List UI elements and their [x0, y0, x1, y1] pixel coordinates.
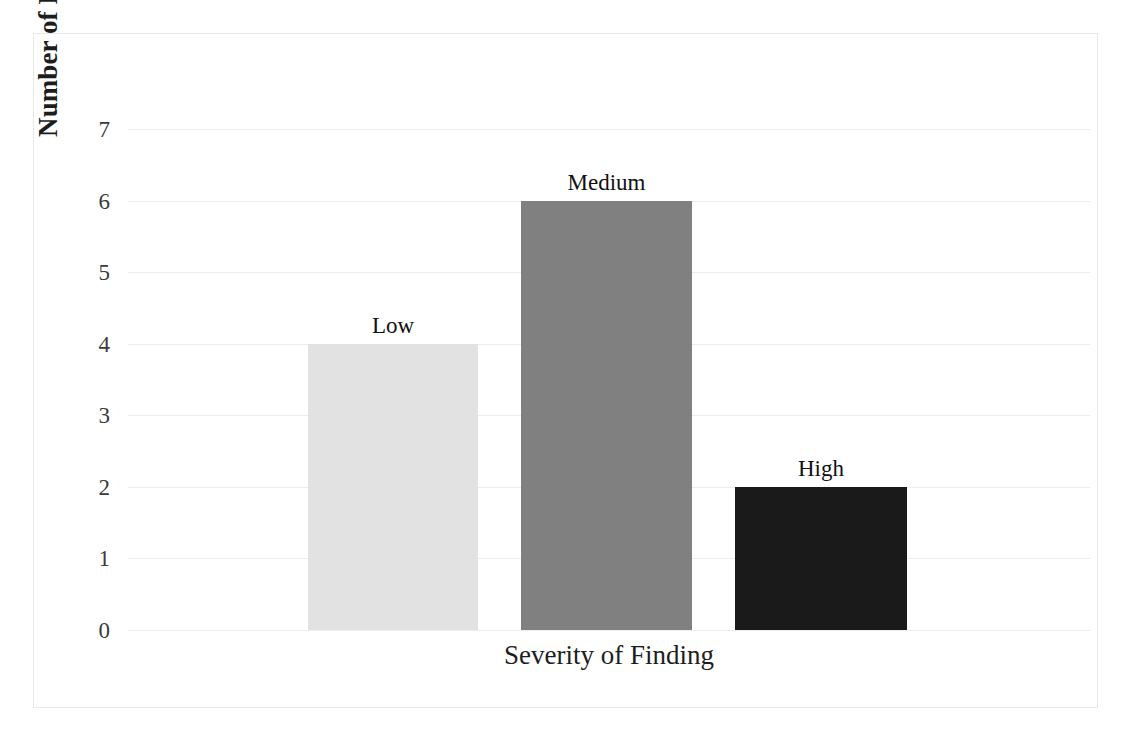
y-tick-0: 0: [99, 619, 111, 642]
plot-area: Low Medium High: [128, 129, 1090, 630]
bar-label-medium: Medium: [568, 171, 646, 194]
gridline-7: [128, 129, 1090, 130]
bar-label-low: Low: [372, 314, 414, 337]
bar-low: [308, 344, 478, 630]
y-axis-title-text: Number of Findings: [33, 0, 64, 137]
y-tick-5: 5: [99, 261, 111, 284]
bar-high: [735, 487, 907, 630]
bar-label-high: High: [798, 457, 844, 480]
gridline-0: [128, 630, 1090, 631]
y-axis-tick-labels: 7 6 5 4 3 2 1 0: [60, 129, 110, 630]
y-tick-6: 6: [99, 189, 111, 212]
y-tick-1: 1: [99, 547, 111, 570]
y-tick-4: 4: [99, 332, 111, 355]
x-axis-title: Severity of Finding: [128, 640, 1090, 671]
y-axis-title: Number of Findings: [28, 0, 68, 200]
y-tick-3: 3: [99, 404, 111, 427]
bar-medium: [521, 201, 692, 630]
y-tick-7: 7: [99, 118, 111, 141]
y-tick-2: 2: [99, 475, 111, 498]
bar-chart-figure: Low Medium High 7 6 5 4 3 2 1 0 Number o…: [0, 0, 1129, 742]
